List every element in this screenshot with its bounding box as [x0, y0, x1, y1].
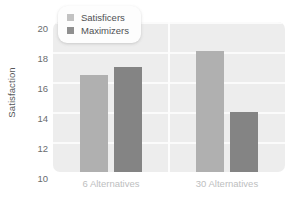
bar-satisficers-group-2 — [196, 51, 224, 173]
legend: Satisficers Maximizers — [58, 6, 141, 43]
y-axis-tick-12: 12 — [37, 143, 48, 154]
bar-chart: Satisfaction 201816141210 Satisficers Ma… — [0, 0, 291, 208]
legend-label-maximizers: Maximizers — [81, 25, 129, 36]
bar-maximizers-group-2 — [230, 112, 258, 172]
legend-item-maximizers: Maximizers — [67, 24, 129, 37]
y-axis-tick-20: 20 — [37, 23, 48, 34]
legend-label-satisficers: Satisficers — [81, 12, 125, 23]
legend-item-satisficers: Satisficers — [67, 11, 129, 24]
y-axis-title-label: Satisfaction — [6, 67, 17, 117]
y-axis-tick-16: 16 — [37, 83, 48, 94]
x-axis-tick-label: 30 Alternatives — [196, 178, 258, 189]
x-axis-tick-label: 6 Alternatives — [82, 178, 139, 189]
x-axis-tick-labels: 6 Alternatives30 Alternatives — [53, 178, 285, 194]
y-axis-title: Satisfaction — [2, 0, 20, 185]
bar-maximizers-group-1 — [114, 67, 142, 172]
y-axis-tick-14: 14 — [37, 113, 48, 124]
bar-satisficers-group-1 — [80, 75, 108, 173]
y-axis-tick-10: 10 — [37, 173, 48, 184]
y-axis-tick-18: 18 — [37, 53, 48, 64]
y-axis-tick-labels: 201816141210 — [22, 28, 48, 170]
plot-area — [53, 22, 285, 172]
legend-swatch-icon-maximizers — [67, 27, 74, 34]
group-divider — [168, 22, 170, 172]
legend-swatch-icon-satisficers — [67, 14, 74, 21]
